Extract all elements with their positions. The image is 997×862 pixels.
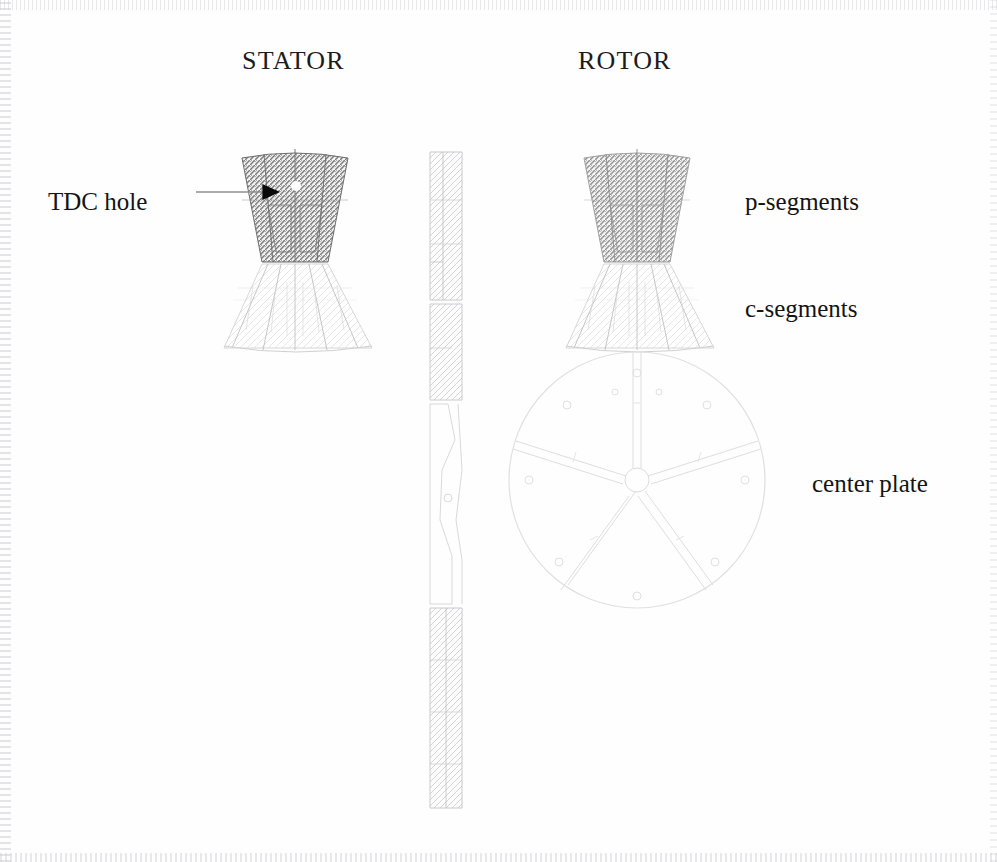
heading-rotor: ROTOR xyxy=(578,46,672,76)
center-plate-rim xyxy=(509,352,765,608)
diagram-canvas: STATOR ROTOR TDC hole p-segments c-segme… xyxy=(0,0,997,862)
center-plate xyxy=(509,352,765,608)
center-plate-hub xyxy=(625,468,649,492)
callout-tdc-hole: TDC hole xyxy=(48,188,147,216)
heading-stator: STATOR xyxy=(242,46,345,76)
rotor-c-segment-fan xyxy=(566,264,714,352)
side-section-view xyxy=(430,152,462,808)
stator-c-segment-fan xyxy=(224,264,372,352)
callout-c-segments: c-segments xyxy=(745,295,857,323)
stator-p-segment-block xyxy=(242,149,348,262)
bolt-holes xyxy=(525,369,749,600)
callout-center-plate: center plate xyxy=(812,470,928,498)
stator-assembly xyxy=(196,149,372,352)
callout-p-segments: p-segments xyxy=(745,188,859,216)
assembly-drawing xyxy=(0,0,997,862)
center-plate-spokes xyxy=(513,353,761,590)
spoke-joints xyxy=(573,403,701,540)
tdc-hole-dot xyxy=(291,181,301,191)
rotor-assembly xyxy=(509,149,765,608)
rotor-p-segment-block xyxy=(584,149,690,262)
